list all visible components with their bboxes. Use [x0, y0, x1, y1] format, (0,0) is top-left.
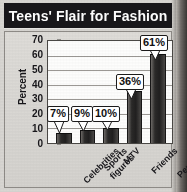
y-tick-label: 60: [32, 50, 43, 60]
y-tick-label: 50: [32, 65, 43, 75]
callout-tail-mtv: [101, 121, 113, 131]
data-label-callout-friends: 36%: [116, 74, 144, 90]
data-label-callout-celebrities: 7%: [47, 106, 69, 122]
data-label-callout-personal-style: 61%: [140, 35, 168, 51]
y-tick-label: 70: [32, 35, 43, 45]
y-tick-label: 20: [32, 109, 43, 119]
callout-tail-celebrities: [53, 121, 65, 134]
x-axis-labels: Celebrities Sports figures MTV Friends P…: [47, 145, 173, 189]
y-tick-label: 40: [32, 80, 43, 90]
chart-title: Teens' Flair for Fashion: [9, 8, 168, 24]
callout-tail-personal-style: [149, 50, 161, 61]
callout-tail-friends: [125, 89, 137, 100]
callout-tail-sports-figures: [77, 121, 89, 132]
bar-personal-style: [150, 54, 166, 143]
chart-title-bar: Teens' Flair for Fashion: [4, 3, 172, 28]
y-tick-label: 30: [32, 94, 43, 104]
y-tick-label: 0: [37, 139, 43, 149]
chart-figure: Teens' Flair for Fashion Percent 70 60 5…: [0, 0, 187, 192]
chart-frame: Percent 70 60 50 40 30 20 10 0: [4, 31, 172, 188]
data-label-callout-sports-figures: 9%: [71, 106, 93, 122]
bar-celebrities: [56, 133, 72, 143]
y-tick-label: 10: [32, 124, 43, 134]
data-label-callout-mtv: 10%: [92, 106, 120, 122]
y-axis-ticks: 70 60 50 40 30 20 10 0: [19, 40, 45, 144]
